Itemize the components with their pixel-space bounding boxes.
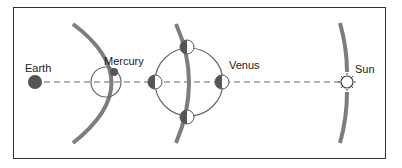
mercury-label: Mercury	[104, 56, 144, 67]
mercury-orbit-arc	[73, 24, 112, 143]
venus-phase-right	[215, 75, 229, 89]
sun-orbit-arc-upper	[340, 23, 347, 72]
earth-planet	[28, 75, 42, 89]
sun-orbit-arc-lower	[340, 92, 347, 143]
venus-phase-top	[180, 40, 194, 54]
venus-phase-left	[148, 75, 162, 89]
venus-label: Venus	[229, 60, 260, 71]
sun-label: Sun	[355, 64, 375, 75]
earth-label: Earth	[25, 63, 51, 74]
sun-icon	[338, 73, 356, 91]
mercury-planet	[110, 68, 118, 76]
venus-phase-bottom	[180, 110, 194, 124]
orbit-diagram	[0, 0, 402, 168]
